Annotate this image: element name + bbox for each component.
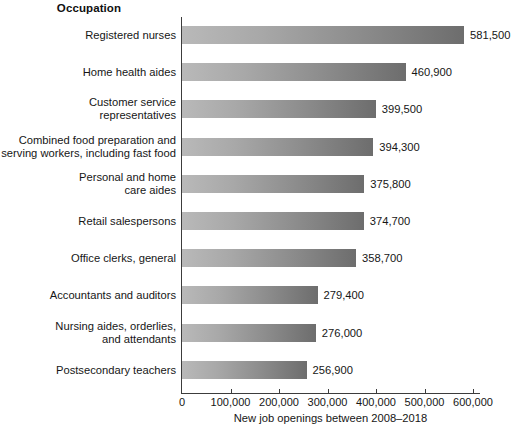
bar-value-label: 279,400 bbox=[324, 289, 364, 301]
bar-row: Office clerks, general358,700 bbox=[0, 249, 524, 267]
x-tick-mark bbox=[425, 389, 426, 394]
x-tick-label: 600,000 bbox=[453, 396, 493, 408]
bar bbox=[182, 138, 373, 156]
bar-chart: Occupation Registered nurses581,500Home … bbox=[0, 0, 524, 443]
clipped-caption bbox=[14, 433, 314, 443]
bar-category-label: Customer service representatives bbox=[0, 96, 176, 122]
bar-row: Home health aides460,900 bbox=[0, 63, 524, 81]
bar bbox=[182, 324, 316, 342]
x-tick-label: 300,000 bbox=[308, 396, 348, 408]
bars-layer: Registered nurses581,500Home health aide… bbox=[0, 0, 524, 443]
bar bbox=[182, 100, 376, 118]
bar-row: Nursing aides, orderlies, and attendants… bbox=[0, 324, 524, 342]
x-tick-label: 400,000 bbox=[356, 396, 396, 408]
bar bbox=[182, 361, 307, 379]
bar-row: Accountants and auditors279,400 bbox=[0, 286, 524, 304]
bar-category-label: Accountants and auditors bbox=[0, 289, 176, 302]
bar bbox=[182, 212, 364, 230]
bar-category-label: Home health aides bbox=[0, 66, 176, 79]
bar-row: Customer service representatives399,500 bbox=[0, 100, 524, 118]
x-tick-mark bbox=[473, 389, 474, 394]
bar-category-label: Retail salespersons bbox=[0, 215, 176, 228]
bar bbox=[182, 249, 356, 267]
x-tick-mark bbox=[376, 389, 377, 394]
bar-value-label: 276,000 bbox=[322, 327, 362, 339]
bar bbox=[182, 63, 406, 81]
bar-row: Personal and home care aides375,800 bbox=[0, 175, 524, 193]
bar-value-label: 394,300 bbox=[379, 141, 419, 153]
x-tick-label: 100,000 bbox=[211, 396, 251, 408]
bar-row: Registered nurses581,500 bbox=[0, 26, 524, 44]
bar-category-label: Registered nurses bbox=[0, 29, 176, 42]
bar-category-label: Personal and home care aides bbox=[0, 171, 176, 197]
bar-row: Retail salespersons374,700 bbox=[0, 212, 524, 230]
x-tick-mark bbox=[231, 389, 232, 394]
bar-category-label: Combined food preparation and serving wo… bbox=[0, 134, 176, 160]
bar-row: Combined food preparation and serving wo… bbox=[0, 138, 524, 156]
bar-category-label: Office clerks, general bbox=[0, 252, 176, 265]
bar-category-label: Postsecondary teachers bbox=[0, 363, 176, 376]
bar-value-label: 374,700 bbox=[370, 215, 410, 227]
bar-value-label: 375,800 bbox=[370, 178, 410, 190]
bar-value-label: 460,900 bbox=[412, 66, 452, 78]
bar-value-label: 399,500 bbox=[382, 103, 422, 115]
x-tick-label: 200,000 bbox=[259, 396, 299, 408]
bar-value-label: 256,900 bbox=[313, 364, 353, 376]
bar bbox=[182, 175, 364, 193]
bar-category-label: Nursing aides, orderlies, and attendants bbox=[0, 320, 176, 346]
bar-value-label: 358,700 bbox=[362, 252, 402, 264]
x-tick-label: 0 bbox=[179, 396, 185, 408]
x-tick-mark bbox=[279, 389, 280, 394]
bar-row: Postsecondary teachers256,900 bbox=[0, 361, 524, 379]
x-tick-mark bbox=[328, 389, 329, 394]
bar bbox=[182, 286, 318, 304]
bar-value-label: 581,500 bbox=[470, 29, 510, 41]
bar bbox=[182, 26, 464, 44]
x-tick-label: 500,000 bbox=[405, 396, 445, 408]
x-axis-title: New job openings between 2008–2018 bbox=[181, 412, 480, 424]
